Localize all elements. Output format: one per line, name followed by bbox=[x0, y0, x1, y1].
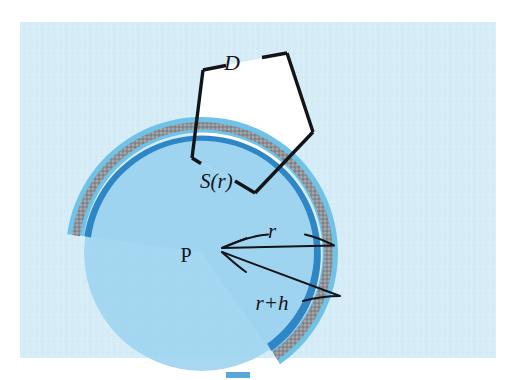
label-shell-s-r: S(r) bbox=[200, 169, 233, 193]
bottom-color-swatch bbox=[226, 372, 250, 378]
label-radius-r: r bbox=[268, 219, 277, 243]
label-radius-plus-h: r+h bbox=[256, 291, 289, 315]
label-domain-d: D bbox=[223, 50, 240, 75]
figure-root: D S(r) P r r+h bbox=[0, 0, 520, 380]
label-point-p: P bbox=[180, 244, 191, 266]
math-figure: D S(r) P r r+h bbox=[0, 0, 520, 380]
